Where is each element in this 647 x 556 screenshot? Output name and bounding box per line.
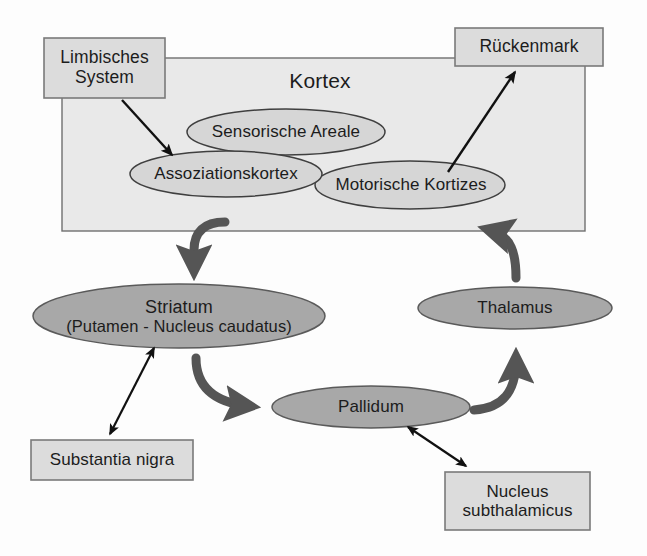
box-nucleus-subthalamicus[interactable]: [445, 472, 590, 530]
diagram-canvas: Kortex Limbisches System Rückenmark Subs…: [0, 0, 647, 556]
ellipse-striatum[interactable]: [33, 284, 325, 348]
box-limbisches-system[interactable]: [44, 38, 165, 98]
ellipse-sensorische-areale[interactable]: [187, 109, 385, 155]
ellipse-assoziationskortex[interactable]: [130, 151, 322, 197]
arrow-thalamus-to-kortex: [490, 230, 516, 278]
ellipse-motorische-kortizes[interactable]: [315, 161, 505, 209]
arrow-pallidum-nucleus-subthalamicus: [408, 427, 466, 466]
arrow-striatum-to-pallidum: [196, 358, 248, 406]
ellipse-thalamus[interactable]: [418, 287, 612, 329]
ellipse-pallidum[interactable]: [272, 386, 470, 428]
arrow-pallidum-to-thalamus: [474, 360, 516, 410]
box-rueckenmark[interactable]: [455, 28, 603, 66]
box-substantia-nigra[interactable]: [31, 440, 193, 480]
arrow-striatum-substantia-nigra: [110, 348, 154, 434]
diagram-vector-layer: [0, 0, 647, 556]
